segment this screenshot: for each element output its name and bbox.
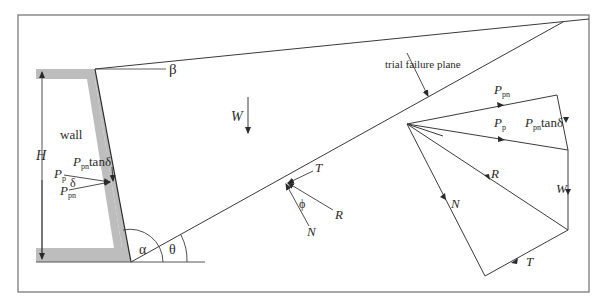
ppn-label-main: P bbox=[59, 183, 68, 198]
weight-label: W bbox=[231, 109, 244, 124]
theta-label: θ bbox=[169, 242, 176, 257]
trial-failure-plane bbox=[131, 22, 563, 262]
poly-t-label: T bbox=[526, 254, 534, 269]
r-arrow-icon bbox=[288, 183, 333, 210]
trial-failure-plane-label: trial failure plane bbox=[385, 58, 461, 70]
n-arrow-icon bbox=[286, 184, 309, 226]
alpha-label: α bbox=[139, 242, 147, 257]
poly-pp-label-sub: p bbox=[502, 123, 506, 132]
phi-label: ϕ bbox=[299, 197, 305, 211]
poly-ppn-tan-label-rest: tanδ bbox=[541, 115, 563, 130]
ppn-tan-label-sub: pn bbox=[81, 162, 89, 171]
poly-ppn-label-main: P bbox=[493, 82, 502, 97]
height-label: H bbox=[35, 148, 47, 163]
poly-n-label: N bbox=[450, 196, 461, 211]
pp-label-main: P bbox=[53, 166, 62, 181]
beta-label: β bbox=[169, 61, 177, 77]
poly-ppn-tan-label-sub: pn bbox=[533, 123, 541, 132]
delta-label: δ bbox=[70, 176, 76, 190]
poly-ppn-tan-label-main: P bbox=[524, 115, 533, 130]
wall-label: wall bbox=[60, 127, 83, 142]
poly-pp-label-main: P bbox=[493, 115, 502, 130]
ppn-label-sub: pn bbox=[68, 191, 76, 200]
ppn-tan-label-rest: tanδ bbox=[89, 154, 111, 169]
retaining-wall-diagram: wall β H W P pn tanδ P p δ P pn α θ T ϕ … bbox=[0, 0, 604, 304]
n-label: N bbox=[306, 224, 317, 239]
t-label: T bbox=[315, 160, 323, 175]
r-label: R bbox=[334, 207, 343, 222]
ppn-tan-label-main: P bbox=[72, 154, 81, 169]
pp-label-sub: p bbox=[62, 174, 66, 183]
theta-arc-icon bbox=[181, 235, 187, 262]
poly-w-label: W bbox=[556, 181, 568, 196]
poly-r-label: R bbox=[490, 166, 499, 181]
poly-ppn-label-sub: pn bbox=[502, 90, 510, 99]
